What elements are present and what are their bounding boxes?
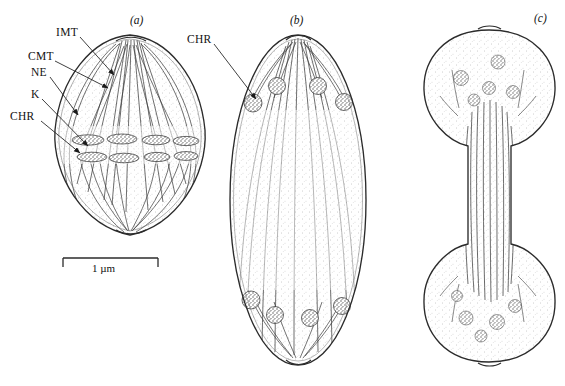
label-cmt: CMT bbox=[28, 50, 54, 62]
spindle-diagram-svg bbox=[0, 0, 565, 386]
panel-c-cytoplasm bbox=[424, 30, 555, 362]
leader-line-chr-b bbox=[214, 44, 256, 99]
panel-c-pole-top bbox=[478, 26, 501, 29]
label-chr-a: CHR bbox=[10, 110, 35, 122]
panel-label-c: (c) bbox=[534, 12, 547, 24]
panel-b-spindle bbox=[230, 35, 366, 365]
label-imt: IMT bbox=[56, 26, 78, 38]
scale-bar-label: 1 µm bbox=[92, 262, 115, 274]
panel-c-telophase bbox=[424, 26, 555, 366]
panel-label-b: (b) bbox=[290, 14, 303, 26]
panel-label-a: (a) bbox=[130, 14, 143, 26]
label-ne: NE bbox=[31, 66, 47, 78]
panel-c-pole-bottom bbox=[478, 363, 501, 366]
label-k: K bbox=[31, 88, 40, 100]
figure-panel-container: IMT CMT NE K CHR CHR (a) (b) (c) 1 µm bbox=[0, 0, 565, 386]
label-chr-b: CHR bbox=[187, 33, 212, 45]
